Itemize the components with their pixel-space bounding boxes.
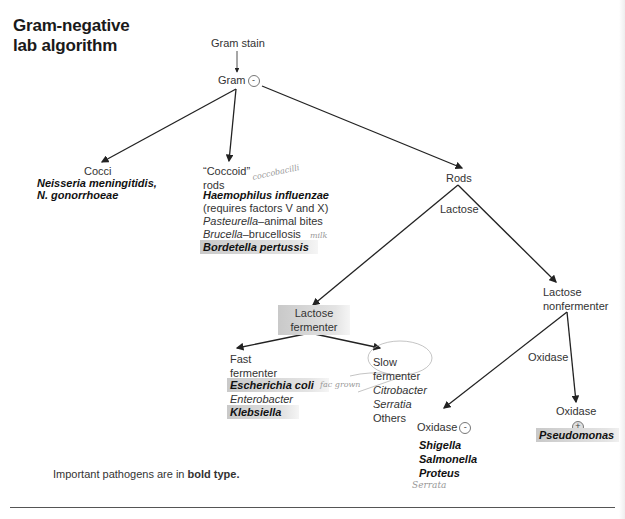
footnote-text: Important pathogens are in [53,468,188,480]
organism-shigella: Shigella [419,438,461,452]
edge-oxidase: Oxidase [528,350,568,364]
slow-line1: Slow [373,355,427,369]
brucella-genus: Brucella [203,228,243,240]
bottom-rule [10,507,615,508]
pasteurella-genus: Pasteurella [203,215,258,227]
pasteurella-desc: –animal bites [258,215,323,227]
haemophilus-note: (requires factors V and X) [203,201,328,215]
organism-citrobacter: Citrobacter [373,383,427,397]
minus-circle-icon: - [459,422,471,434]
slow-line2: fermenter [373,369,427,383]
cocci-organism-2: N. gonorrhoeae [37,188,118,202]
title-line2: lab algorithm [13,36,129,56]
lactose-fermenter-line1: Lactose [281,306,347,320]
organism-serratia: Serratia [373,397,427,411]
handnote-serrata: Serrata [412,480,446,490]
node-oxidase-positive: Oxidase [556,404,596,418]
minus-circle-icon: - [248,75,260,87]
organism-pseudomonas: Pseudomonas [536,428,624,442]
organism-e-coli: Escherichia coli [227,378,329,392]
oxidase-neg-label: Oxidase [417,421,457,433]
edge-lactose: Lactose [440,202,479,216]
node-slow-fermenter: Slow fermenter Citrobacter Serratia Othe… [373,355,427,425]
lactose-nonfermenter-line1: Lactose [543,285,608,299]
brucella-desc: –brucellosis [243,228,301,240]
lactose-nonfermenter-line2: nonfermenter [543,299,608,313]
node-oxidase-negative: Oxidase- [417,420,471,434]
organism-enterobacter: Enterobacter [230,392,293,406]
node-rods: Rods [446,171,472,185]
node-gram-negative: Gram- [218,73,260,87]
node-lactose-nonfermenter: Lactose nonfermenter [543,285,608,313]
node-lactose-fermenter: Lactose fermenter [278,305,350,335]
fast-line1: Fast [230,352,277,366]
diagram-arrows [0,0,625,519]
organism-salmonella: Salmonella [419,452,477,466]
handnote-fac-grown: fac grown [320,380,361,389]
organism-haemophilus: Haemophilus influenzae [203,188,329,202]
lactose-fermenter-line2: fermenter [281,320,347,334]
footnote: Important pathogens are in bold type. [53,467,239,481]
title-line1: Gram-negative [13,16,129,36]
footnote-bold: bold type. [188,468,240,480]
gram-label: Gram [218,74,246,86]
node-fast-fermenter: Fast fermenter [230,352,277,380]
page-title: Gram-negative lab algorithm [13,16,129,56]
organism-bordetella: Bordetella pertussis [200,240,318,254]
organism-proteus: Proteus [419,466,460,480]
page-edge [619,0,625,519]
coccoid-label-1: “Coccoid” [203,164,250,178]
handnote-milk: milk [310,231,328,240]
organism-klebsiella: Klebsiella [227,405,299,419]
node-gram-stain: Gram stain [211,36,265,50]
organism-pasteurella: Pasteurella–animal bites [203,214,323,228]
